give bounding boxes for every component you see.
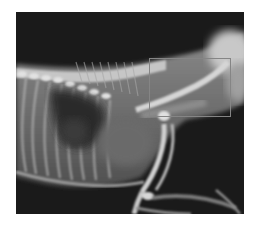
region-of-interest-box xyxy=(149,58,231,117)
cardiac-silhouette xyxy=(98,118,154,166)
radiograph-image xyxy=(16,12,244,214)
